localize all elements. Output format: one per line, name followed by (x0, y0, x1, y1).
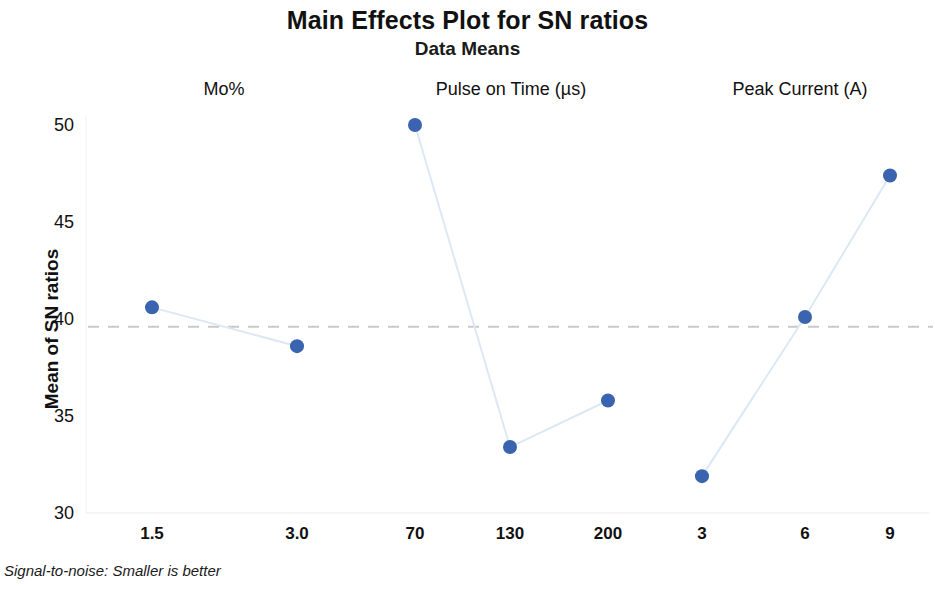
x-tick-label-current-3: 9 (885, 524, 894, 544)
x-tick-label-current-1: 3 (697, 524, 706, 544)
data-point-marker[interactable] (408, 118, 422, 132)
x-tick-label-current-2: 6 (800, 524, 809, 544)
data-point-marker[interactable] (290, 339, 304, 353)
data-point-marker[interactable] (798, 310, 812, 324)
data-point-marker[interactable] (601, 393, 615, 407)
x-tick-label-pulse-2: 130 (496, 524, 524, 544)
signal-to-noise-footnote: Signal-to-noise: Smaller is better (4, 562, 221, 579)
series-line (415, 125, 608, 447)
series-group (145, 118, 897, 483)
x-tick-label-pulse-1: 70 (406, 524, 425, 544)
plot-canvas (0, 0, 935, 589)
data-point-marker[interactable] (503, 440, 517, 454)
data-point-marker[interactable] (883, 168, 897, 182)
x-tick-label-mo-1: 1.5 (140, 524, 164, 544)
data-point-marker[interactable] (145, 300, 159, 314)
x-tick-label-mo-2: 3.0 (285, 524, 309, 544)
x-tick-label-pulse-3: 200 (594, 524, 622, 544)
data-point-marker[interactable] (695, 469, 709, 483)
panel-series-2 (408, 118, 615, 454)
main-effects-plot: Main Effects Plot for SN ratios Data Mea… (0, 0, 935, 589)
